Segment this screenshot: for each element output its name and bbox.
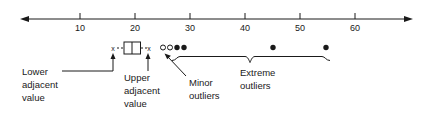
upper-adjacent-value-label-line1: Upper [124,72,150,83]
axis-tick-label-10: 10 [75,23,85,33]
upper-adjacent-value-marker: x [147,45,151,52]
extreme-outlier-point [174,45,179,50]
extreme-outlier-point [323,45,328,50]
axis-right-arrowhead [404,16,413,22]
axis-left-arrowhead [20,16,29,22]
minor-outliers-label-line1: Minor [189,77,213,88]
minor-outliers-leader-line [168,57,186,76]
minor-outlier-point [168,45,173,50]
leader-lines-group [62,53,330,76]
axis-tick-label-40: 40 [240,23,250,33]
figure-canvas: 10 20 30 40 50 60 x x [0,0,433,114]
axis-tick-label-60: 60 [350,23,360,33]
lower-adjacent-leader-line [62,57,113,71]
lower-adjacent-leader-arrowhead [111,53,116,59]
boxplot-diagram-svg: 10 20 30 40 50 60 x x [0,0,433,114]
lower-adjacent-value-label-line3: value [22,92,45,103]
extreme-outlier-point [270,45,275,50]
minor-outlier-point [161,45,166,50]
lower-adjacent-value-label-line1: Lower [22,66,48,77]
upper-adjacent-value-label-line3: value [124,98,147,109]
extreme-outliers-label-line1: Extreme [240,67,275,78]
extreme-outliers-label-line2: outliers [240,80,271,91]
annotation-text-group: Lower adjacent value Upper adjacent valu… [22,66,275,109]
axis-tick-label-20: 20 [130,23,140,33]
extreme-outliers-brace [172,57,330,63]
boxplot-group: x x [111,42,328,54]
upper-adjacent-value-label-line2: adjacent [124,85,160,96]
lower-adjacent-value-label-line2: adjacent [22,79,58,90]
axis-tick-label-50: 50 [295,23,305,33]
axis-tick-label-30: 30 [185,23,195,33]
extreme-outlier-point [181,45,186,50]
lower-adjacent-value-marker: x [111,45,115,52]
axis-group: 10 20 30 40 50 60 [20,13,413,33]
minor-outliers-label-line2: outliers [189,90,220,101]
upper-adjacent-leader-arrowhead [146,53,151,59]
